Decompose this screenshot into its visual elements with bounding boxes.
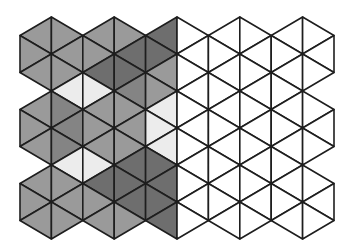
triangle-layer — [20, 17, 334, 239]
triangular-lattice-figure — [0, 0, 349, 252]
lattice-svg — [0, 0, 349, 252]
